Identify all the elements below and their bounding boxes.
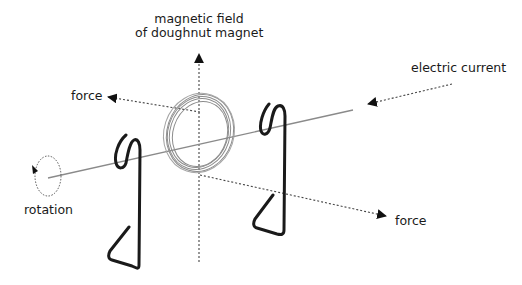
- rotation-arrowhead-icon: [32, 165, 38, 174]
- magnetic-field-label: magnetic field of doughnut magnet: [135, 12, 263, 40]
- magnetic-field-label-line2: of doughnut magnet: [135, 26, 263, 40]
- electric-current-label: electric current: [411, 61, 506, 75]
- right-wire-support: [254, 104, 285, 235]
- force-left-label: force: [71, 89, 102, 103]
- magnetic-field-label-line1: magnetic field: [135, 12, 263, 26]
- motor-diagram: [0, 0, 522, 285]
- axle: [48, 110, 353, 178]
- left-wire-support: [109, 135, 140, 268]
- force-right-label: force: [395, 214, 426, 228]
- force-right-arrow: [200, 175, 386, 216]
- rotation-label: rotation: [24, 203, 73, 217]
- electric-current-arrow: [368, 84, 452, 104]
